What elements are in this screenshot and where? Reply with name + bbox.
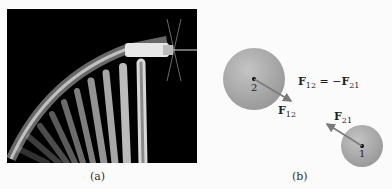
sphere-2-label: 2 [251,82,257,93]
force-12-label: F12 [278,104,296,119]
newton-third-law-equation: F12 = −F21 [298,75,359,90]
force-pair-diagram: 2 1 F12 F21 F12 = −F21 [200,0,392,189]
caption-a: (a) [90,170,105,183]
spheres-graphic [200,0,392,189]
caption-b: (b) [292,170,308,183]
sphere-1-label: 1 [359,148,365,159]
force-21-label: F21 [334,110,352,125]
hammer-sequence-graphic [7,9,197,163]
hammer-strobe-photo [7,9,197,163]
